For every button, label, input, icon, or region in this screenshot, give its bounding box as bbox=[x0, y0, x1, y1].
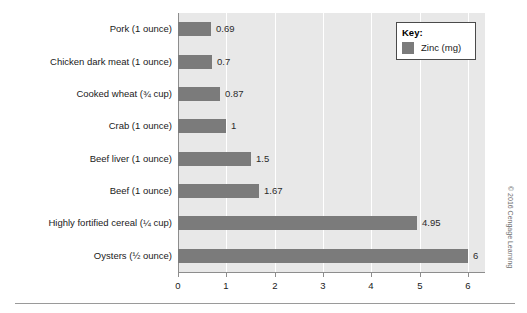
value-label: 0.87 bbox=[225, 87, 244, 101]
value-label: 1.67 bbox=[264, 184, 283, 198]
x-tick bbox=[371, 272, 372, 277]
legend-box: Key: Zinc (mg) bbox=[396, 22, 476, 60]
legend-title: Key: bbox=[402, 27, 470, 39]
x-tick bbox=[323, 272, 324, 277]
x-tick bbox=[226, 272, 227, 277]
x-axis-ticks bbox=[178, 272, 485, 278]
category-label: Beef liver (1 ounce) bbox=[0, 152, 172, 166]
x-tick bbox=[468, 272, 469, 277]
category-label: Pork (1 ounce) bbox=[0, 22, 172, 36]
value-label: 4.95 bbox=[422, 216, 441, 230]
bottom-divider bbox=[15, 303, 515, 304]
x-tick-label: 4 bbox=[359, 280, 383, 292]
value-label: 1.5 bbox=[256, 152, 269, 166]
value-label: 0.69 bbox=[216, 22, 235, 36]
category-label: Crab (1 ounce) bbox=[0, 119, 172, 133]
category-label: Cooked wheat (¾ cup) bbox=[0, 87, 172, 101]
category-axis-labels: Pork (1 ounce)Chicken dark meat (1 ounce… bbox=[0, 13, 172, 272]
category-label: Chicken dark meat (1 ounce) bbox=[0, 55, 172, 69]
x-tick bbox=[420, 272, 421, 277]
value-label: 0.7 bbox=[217, 55, 230, 69]
value-label: 1 bbox=[231, 119, 236, 133]
x-tick-label: 5 bbox=[408, 280, 432, 292]
x-tick-label: 3 bbox=[311, 280, 335, 292]
legend-color-swatch bbox=[402, 42, 414, 54]
x-tick-label: 0 bbox=[166, 280, 190, 292]
x-tick bbox=[178, 272, 179, 277]
x-axis-tick-labels: 0123456 bbox=[178, 280, 485, 294]
category-label: Highly fortified cereal (¼ cup) bbox=[0, 216, 172, 230]
category-label: Oysters (½ ounce) bbox=[0, 249, 172, 263]
x-tick-label: 1 bbox=[214, 280, 238, 292]
legend-entry-zinc: Zinc (mg) bbox=[402, 42, 470, 54]
legend-entry-label: Zinc (mg) bbox=[421, 42, 461, 54]
value-label: 6 bbox=[473, 249, 478, 263]
copyright-notice: © 2016 Cengage Learning bbox=[506, 186, 515, 282]
category-label: Beef (1 ounce) bbox=[0, 184, 172, 198]
x-tick bbox=[275, 272, 276, 277]
zinc-content-bar-chart: Pork (1 ounce)Chicken dark meat (1 ounce… bbox=[0, 0, 527, 313]
x-tick-label: 6 bbox=[456, 280, 480, 292]
x-tick-label: 2 bbox=[263, 280, 287, 292]
